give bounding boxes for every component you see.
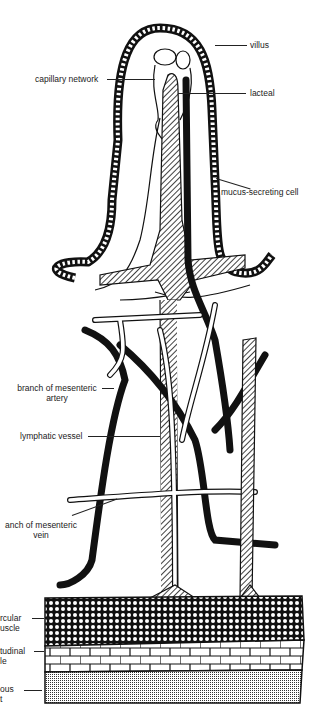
label-vein-line1: anch of mesenteric (5, 520, 77, 530)
longitudinal-muscle-layer (45, 640, 304, 672)
circular-muscle-layer (45, 596, 304, 646)
leader-circular-muscle (32, 618, 44, 619)
label-serous-line1: ous (0, 684, 14, 694)
leader-serous-coat (24, 690, 42, 691)
label-circular-muscle: rcular uscle (0, 613, 21, 633)
label-branch-of-mesenteric-vein: anch of mesenteric vein (0, 520, 82, 540)
label-vein-line2: vein (33, 530, 49, 540)
label-longitudinal-line1: tudinal (0, 646, 25, 656)
label-longitudinal-line2: le (0, 656, 7, 666)
serous-coat-layer (45, 670, 302, 703)
label-villus: villus (250, 40, 269, 50)
label-circular-line1: rcular (0, 613, 21, 623)
label-lacteal: lacteal (250, 88, 275, 98)
leader-capillary-network (107, 79, 155, 80)
label-circular-line2: uscle (0, 623, 20, 633)
label-capillary-network: capillary network (35, 74, 98, 84)
leader-longitudinal-muscle (34, 651, 44, 652)
label-serous-line2: t (0, 694, 2, 704)
label-branch-of-mesenteric-artery: branch of mesenteric artery (12, 383, 102, 403)
label-artery-line1: branch of mesenteric (17, 383, 96, 393)
label-mucus-secreting-cell: mucus-secreting cell (221, 187, 298, 197)
label-longitudinal-muscle: tudinal le (0, 646, 25, 666)
label-lymphatic-vessel: lymphatic vessel (20, 431, 82, 441)
leader-villus (215, 45, 247, 46)
villus-diagram (0, 0, 311, 717)
leader-artery (102, 388, 114, 389)
label-artery-line2: artery (46, 393, 68, 403)
label-serous-coat: ous t (0, 684, 14, 704)
right-lymphatic-vessel (240, 338, 256, 600)
leader-lacteal (178, 93, 246, 94)
leader-lymphatic-vessel (88, 436, 160, 437)
